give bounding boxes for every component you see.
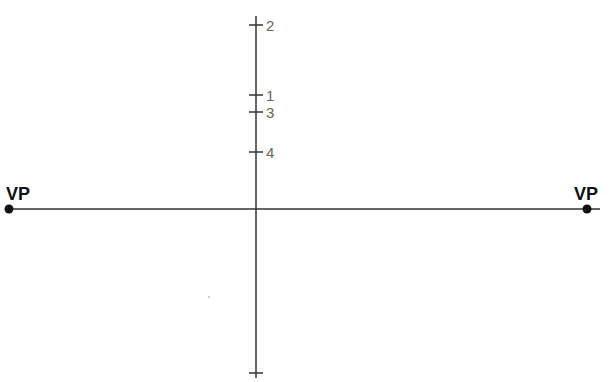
tick-label-3: 3 xyxy=(266,105,274,120)
vp-label-right: VP xyxy=(574,185,598,203)
vanishing-point-right xyxy=(583,205,592,214)
tick-label-2: 2 xyxy=(266,18,274,33)
vanishing-point-left xyxy=(5,205,14,214)
perspective-diagram xyxy=(0,0,616,382)
vp-label-left: VP xyxy=(6,185,30,203)
tick-label-4: 4 xyxy=(266,145,274,160)
speck xyxy=(208,296,210,298)
tick-label-1: 1 xyxy=(266,88,274,103)
